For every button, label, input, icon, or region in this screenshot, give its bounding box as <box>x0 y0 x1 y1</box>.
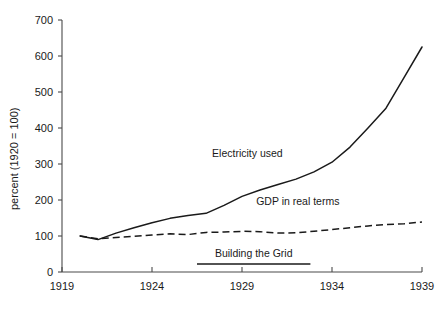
y-tick-label: 500 <box>35 86 53 98</box>
series-group <box>80 47 422 240</box>
y-axis-title: percent (1920 = 100) <box>8 108 20 210</box>
x-tick-label: 1924 <box>140 280 164 292</box>
x-tick-label: 1929 <box>230 280 254 292</box>
chart-container: 0100200300400500600700 19191924192919341… <box>0 0 442 315</box>
series-line-electricity-used <box>80 47 422 240</box>
y-tick-label: 300 <box>35 158 53 170</box>
annotation-building-the-grid: Building the Grid <box>197 247 310 264</box>
y-tick-label: 100 <box>35 230 53 242</box>
y-tick-label: 400 <box>35 122 53 134</box>
series-label-electricity-used: Electricity used <box>212 147 283 159</box>
x-tick-label: 1939 <box>410 280 434 292</box>
series-line-gdp-real-terms <box>80 222 422 239</box>
annotation-label: Building the Grid <box>215 247 293 259</box>
series-label-gdp-real-terms: GDP in real terms <box>256 195 339 207</box>
y-tick-label: 700 <box>35 14 53 26</box>
x-tick-label: 1919 <box>50 280 74 292</box>
y-tick-label: 600 <box>35 50 53 62</box>
x-tick-label: 1934 <box>320 280 344 292</box>
y-tick-label: 0 <box>47 266 53 278</box>
y-tick-label: 200 <box>35 194 53 206</box>
x-axis-ticks: 19191924192919341939 <box>50 267 434 292</box>
y-axis-ticks: 0100200300400500600700 <box>35 14 62 278</box>
line-chart: 0100200300400500600700 19191924192919341… <box>0 0 442 315</box>
